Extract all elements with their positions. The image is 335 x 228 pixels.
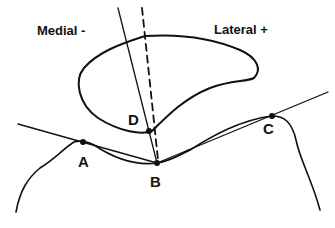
point-d-label: D	[128, 111, 139, 128]
medial-label: Medial -	[37, 23, 85, 38]
point-b-label: B	[150, 173, 161, 190]
point-c-marker	[269, 113, 275, 119]
solid-axis-line	[118, 8, 157, 163]
point-c-label: C	[263, 120, 274, 137]
point-a-label: A	[78, 153, 89, 170]
point-b-marker	[154, 160, 160, 166]
lateral-label: Lateral +	[214, 22, 268, 37]
lower-bone-outline	[16, 116, 320, 212]
upper-bone-outline	[79, 35, 258, 132]
point-a-marker	[80, 139, 86, 145]
point-d-marker	[146, 128, 152, 134]
